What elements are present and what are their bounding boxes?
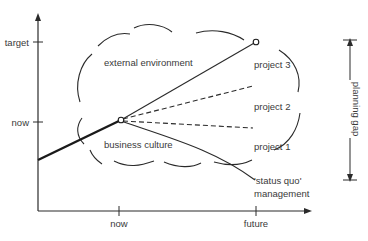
project2-line: [123, 86, 253, 119]
x-tick-label-future: future: [244, 218, 268, 229]
y-tick-label-now: now: [12, 117, 30, 128]
status-quo-line: [121, 121, 255, 180]
project2-label: project 2: [254, 101, 290, 112]
now-point: [118, 117, 124, 123]
project1-line: [123, 121, 253, 128]
business-culture-label: business culture: [104, 139, 173, 150]
planning-gap-label: planning gap: [351, 82, 362, 136]
external-environment-label: external environment: [104, 57, 193, 68]
status-quo-label: 'status quo': [254, 175, 302, 186]
x-tick-label-now: now: [110, 218, 128, 229]
target-point: [253, 39, 259, 45]
project3-label: project 3: [254, 59, 290, 70]
planning-gap-indicator: planning gap: [343, 40, 362, 180]
project1-label: project 1: [254, 141, 290, 152]
management-label: management: [254, 188, 310, 199]
y-tick-label-target: target: [5, 37, 30, 48]
project3-line: [121, 42, 256, 120]
planning-gap-diagram: target now now future external environme…: [0, 0, 368, 241]
